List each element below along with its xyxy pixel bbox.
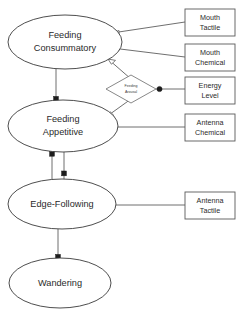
node-label-feeding-consummatory-line2: Consummatory: [34, 43, 97, 53]
node-label-antenna-chemical-line1: Antenna: [197, 118, 224, 127]
node-energy-level[interactable]: Energy Level: [185, 77, 235, 104]
connection-mouth-tactile-to-consummatory: [112, 22, 185, 36]
node-label-feeding-consummatory-line1: Feeding: [48, 30, 81, 40]
node-feeding-appetitive[interactable]: Feeding Appetitive: [8, 100, 118, 152]
node-wandering[interactable]: Wandering: [9, 258, 111, 308]
node-feeding-arousal[interactable]: Feeding Arousal: [106, 75, 156, 103]
node-label-feeding-arousal-line1: Feeding: [125, 84, 138, 88]
behaviour-hierarchy-diagram: Feeding Consummatory Feeding Appetitive …: [0, 0, 245, 318]
node-label-feeding-arousal-line2: Arousal: [125, 90, 137, 94]
node-edge-following[interactable]: Edge-Following: [8, 179, 116, 229]
node-antenna-chemical[interactable]: Antenna Chemical: [185, 114, 235, 141]
connection-antenna-chemical-to-appetitive: [110, 124, 185, 129]
node-antenna-tactile[interactable]: Antenna Tactile: [185, 192, 235, 219]
node-mouth-chemical[interactable]: Mouth Chemical: [185, 44, 235, 71]
connection-edge-following-to-wandering: [56, 229, 61, 259]
connection-antenna-tactile-to-edge-following: [108, 202, 185, 207]
node-label-antenna-tactile-line2: Tactile: [200, 206, 220, 215]
node-label-mouth-chemical-line1: Mouth: [200, 48, 220, 57]
node-label-feeding-appetitive-line2: Appetitive: [43, 127, 83, 137]
connection-appetitive-to-edge-following-b: [62, 151, 67, 181]
node-label-antenna-chemical-line2: Chemical: [195, 128, 225, 137]
node-label-antenna-tactile-line1: Antenna: [197, 196, 224, 205]
node-feeding-consummatory[interactable]: Feeding Consummatory: [8, 15, 122, 69]
connection-mouth-chemical-to-consummatory: [112, 45, 185, 57]
node-label-mouth-tactile-line1: Mouth: [200, 13, 220, 22]
node-mouth-tactile[interactable]: Mouth Tactile: [185, 9, 235, 36]
node-label-energy-level-line2: Level: [201, 91, 219, 100]
connection-consummatory-to-appetitive: [54, 69, 59, 101]
connection-energy-level-to-arousal: [156, 86, 185, 91]
node-label-energy-level-line1: Energy: [199, 81, 222, 90]
diagram-canvas: Feeding Consummatory Feeding Appetitive …: [0, 0, 245, 318]
node-label-mouth-tactile-line2: Tactile: [200, 23, 220, 32]
node-label-mouth-chemical-line2: Chemical: [195, 58, 225, 67]
connection-appetitive-to-edge-following-a: [50, 151, 55, 181]
connection-consummatory-to-arousal: [108, 59, 131, 79]
node-label-edge-following: Edge-Following: [30, 199, 93, 209]
node-label-wandering: Wandering: [38, 278, 82, 288]
node-label-feeding-appetitive-line1: Feeding: [46, 114, 79, 124]
